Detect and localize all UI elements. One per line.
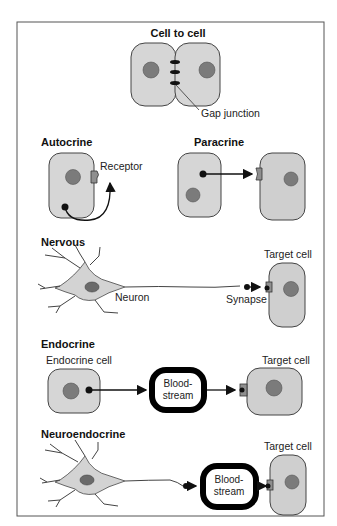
target-cell-label: Target cell xyxy=(264,248,312,260)
nucleus xyxy=(186,188,200,202)
endocrine-cell-label: Endocrine cell xyxy=(46,354,112,366)
cell-signaling-diagram: Cell to cell Gap junction Autocrine Rece… xyxy=(0,0,337,526)
nucleus xyxy=(284,172,298,186)
panel-title: Neuroendocrine xyxy=(41,428,125,440)
target-cell-label: Target cell xyxy=(264,440,312,452)
bloodstream-label: stream xyxy=(214,486,245,497)
cell xyxy=(49,153,94,218)
synapse-label: Synapse xyxy=(226,293,267,305)
panel-title: Nervous xyxy=(41,236,85,248)
target-cell-label: Target cell xyxy=(262,354,310,366)
gap-junction-label: Gap junction xyxy=(201,107,260,119)
nucleus xyxy=(143,62,159,78)
bloodstream-label: Blood- xyxy=(215,474,244,485)
nucleus xyxy=(266,380,282,396)
nucleus xyxy=(285,475,299,489)
neuron-label: Neuron xyxy=(115,291,150,303)
nucleus xyxy=(199,62,215,78)
panel-title: Paracrine xyxy=(194,136,244,148)
receptor xyxy=(91,171,99,183)
gap-junction xyxy=(170,70,180,74)
panel-title: Autocrine xyxy=(41,136,92,148)
gap-junction xyxy=(170,81,180,85)
panel-title: Cell to cell xyxy=(150,27,205,39)
bloodstream-label: stream xyxy=(163,390,194,401)
target-cell xyxy=(260,153,305,220)
nucleus xyxy=(66,170,81,185)
bloodstream-label: Blood- xyxy=(164,378,193,389)
receptor-label: Receptor xyxy=(100,160,143,172)
nucleus xyxy=(63,383,79,399)
gap-junction xyxy=(170,60,180,64)
cell-source xyxy=(178,153,221,217)
panel-title: Endocrine xyxy=(41,338,95,350)
nucleus xyxy=(284,282,299,297)
